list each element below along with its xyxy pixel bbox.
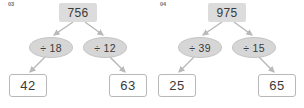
- division-worksheet: 03 756 ÷ 18 ÷ 12 42 63 04: [0, 0, 304, 108]
- edge-root-to-right-op: [234, 22, 252, 35]
- edge-left-op-to-result: [179, 57, 194, 72]
- result-box-right[interactable]: 63: [109, 74, 147, 97]
- edge-root-to-right-op: [85, 22, 103, 35]
- result-box-left[interactable]: 25: [158, 74, 196, 97]
- problem-03: 03 756 ÷ 18 ÷ 12 42 63: [0, 0, 152, 108]
- dividend-box: 756: [59, 3, 97, 22]
- operator-node-right: ÷ 15: [232, 37, 276, 58]
- result-box-left[interactable]: 42: [9, 74, 47, 97]
- problem-04: 04 975 ÷ 39 ÷ 15 25 65: [152, 0, 304, 108]
- operator-node-left: ÷ 39: [178, 37, 222, 58]
- edge-left-op-to-result: [30, 57, 45, 72]
- operator-node-right: ÷ 12: [83, 37, 127, 58]
- edge-root-to-left-op: [54, 22, 73, 35]
- edge-right-op-to-result: [259, 57, 274, 72]
- dividend-box: 975: [208, 3, 246, 22]
- edge-root-to-left-op: [203, 22, 222, 35]
- operator-node-left: ÷ 18: [29, 37, 73, 58]
- result-box-right[interactable]: 65: [258, 74, 296, 97]
- edge-right-op-to-result: [110, 57, 125, 72]
